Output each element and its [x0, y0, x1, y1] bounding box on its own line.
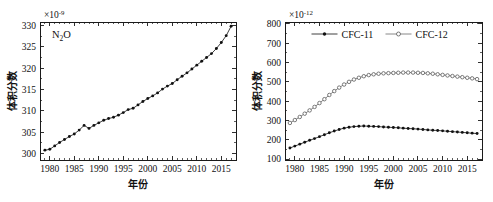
data-point: [318, 101, 322, 105]
data-point: [230, 25, 233, 28]
data-point: [328, 131, 331, 134]
data-point: [127, 108, 130, 111]
x-tick-label: 2005: [408, 164, 427, 174]
data-point: [73, 132, 76, 135]
data-point: [92, 124, 95, 127]
data-point: [401, 71, 405, 75]
data-point: [88, 127, 91, 130]
x-tick-label: 2000: [384, 164, 403, 174]
x-tick-label: 2015: [458, 164, 477, 174]
data-point: [58, 141, 61, 144]
data-point: [407, 127, 410, 130]
y-tick-label: 500: [267, 77, 282, 87]
y-axis-exponent-power: -12: [304, 9, 314, 16]
y-tick-label: 305: [22, 128, 37, 138]
y-axis-exponent-base: ×10-9: [44, 9, 65, 20]
data-point: [122, 111, 125, 114]
data-point: [348, 126, 351, 129]
data-point: [446, 130, 449, 133]
data-point: [132, 107, 135, 110]
data-point: [323, 97, 327, 101]
data-point: [318, 135, 321, 138]
data-point: [293, 145, 296, 148]
series-markers-cfc-11: [288, 125, 478, 150]
chart-legend: CFC-11CFC-12: [312, 29, 448, 40]
y-tick-label: 200: [267, 135, 282, 145]
data-point: [456, 131, 459, 134]
data-point: [303, 112, 307, 116]
x-tick-label: 1985: [310, 164, 329, 174]
n2o-plot: 1980198519901995200020052010201530030531…: [0, 0, 247, 202]
legend-marker: [323, 32, 326, 35]
data-point: [288, 121, 292, 125]
data-point: [461, 75, 465, 79]
data-point: [441, 73, 445, 77]
x-tick-label: 1980: [285, 164, 304, 174]
y-tick-label: 325: [22, 42, 37, 52]
data-point: [225, 34, 228, 37]
data-point: [382, 126, 385, 129]
data-point: [313, 137, 316, 140]
data-point: [377, 72, 381, 76]
x-tick-label: 1980: [40, 164, 59, 174]
data-point: [357, 125, 360, 128]
cfc-plot: 1980198519901995200020052010201510020030…: [247, 0, 493, 202]
y-tick-label: 315: [22, 85, 37, 95]
data-point: [466, 131, 469, 134]
x-tick-label: 1995: [359, 164, 378, 174]
data-point: [362, 125, 365, 128]
data-point: [372, 73, 376, 77]
data-point: [117, 114, 120, 117]
data-point: [362, 74, 366, 78]
data-point: [426, 72, 430, 76]
data-point: [436, 129, 439, 132]
data-point: [456, 75, 460, 79]
data-point: [308, 139, 311, 142]
data-point: [308, 109, 312, 113]
data-point: [137, 103, 140, 106]
x-tick-label: 2005: [163, 164, 182, 174]
data-point: [461, 131, 464, 134]
data-point: [205, 56, 208, 59]
data-point: [367, 73, 371, 77]
data-point: [387, 126, 390, 129]
data-point: [392, 71, 396, 75]
data-point: [436, 73, 440, 77]
data-point: [68, 135, 71, 138]
data-point: [353, 125, 356, 128]
x-tick-label: 1990: [335, 164, 354, 174]
data-point: [367, 125, 370, 128]
data-point: [181, 75, 184, 78]
data-point: [441, 129, 444, 132]
series-line-cfc-11: [290, 126, 477, 148]
data-point: [451, 74, 455, 78]
y-axis-exponent: ×10-9: [44, 9, 65, 20]
series-line-cfc-12: [290, 73, 477, 123]
data-point: [328, 93, 332, 97]
x-tick-label: 1985: [65, 164, 84, 174]
legend-label: CFC-11: [342, 29, 374, 40]
data-point: [343, 127, 346, 130]
data-point: [342, 83, 346, 87]
legend-label: CFC-12: [416, 29, 448, 40]
series-markers-n2o: [43, 25, 232, 152]
data-point: [141, 100, 144, 103]
data-point: [372, 125, 375, 128]
data-point: [166, 85, 169, 88]
data-point: [421, 71, 425, 75]
x-tick-label: 2010: [433, 164, 452, 174]
data-point: [451, 130, 454, 133]
data-point: [397, 71, 401, 75]
data-point: [107, 117, 110, 120]
y-axis-label: 体积分数: [6, 70, 18, 111]
data-point: [97, 121, 100, 124]
data-point: [298, 115, 302, 119]
data-point: [471, 132, 474, 135]
data-point: [446, 74, 450, 78]
data-point: [426, 128, 429, 131]
series-line-n2o: [45, 26, 231, 150]
x-tick-label: 2015: [212, 164, 231, 174]
data-point: [313, 105, 317, 109]
data-point: [397, 126, 400, 129]
y-axis-label: 体积分数: [251, 70, 263, 111]
